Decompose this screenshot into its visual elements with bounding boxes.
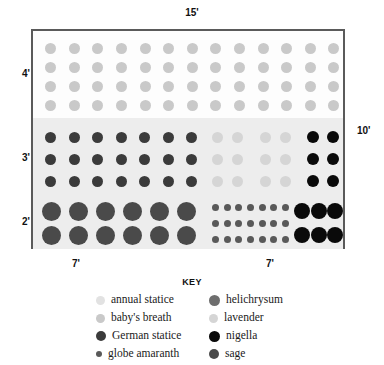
dimension-label-bottom-right: 7'	[250, 258, 290, 269]
plant-dot-german_statice	[186, 154, 197, 165]
plant-group-lavender-b	[255, 126, 295, 192]
plant-dot-babys_breath	[163, 100, 174, 111]
dimension-label-bottom-left: 7'	[56, 258, 96, 269]
plant-group-lavender-a	[207, 126, 247, 192]
plant-dot-babys_breath	[187, 100, 198, 111]
plant-dot-babys_breath	[234, 62, 245, 73]
plant-dot-babys_breath	[69, 62, 80, 73]
legend-item: globe amaranth	[96, 345, 209, 363]
plant-dot-babys_breath	[163, 62, 174, 73]
legend-item-label: helichrysum	[226, 294, 283, 306]
legend-item-label: annual statice	[111, 294, 174, 306]
plant-dot-babys_breath	[258, 100, 269, 111]
plant-dot-lavender_b	[260, 132, 271, 143]
plant-dot-globe_amaranth	[224, 220, 231, 227]
plant-dot-sage	[69, 226, 88, 245]
legend-item-label: nigella	[226, 330, 257, 342]
plant-dot-babys_breath	[258, 81, 269, 92]
plant-dot-german_statice	[139, 154, 150, 165]
plant-dot-globe_amaranth	[224, 236, 231, 243]
plant-dot-babys_breath	[92, 100, 103, 111]
plant-dot-lavender_a	[212, 132, 223, 143]
plant-dot-german_statice	[163, 132, 174, 143]
plant-dot-nigella_bottom	[327, 203, 343, 219]
plant-dot-babys_breath	[45, 100, 56, 111]
plant-dot-babys_breath	[140, 62, 151, 73]
plant-group-nigella-bottom	[294, 199, 344, 247]
plant-dot-german_statice	[45, 176, 56, 187]
plant-dot-german_statice	[69, 154, 80, 165]
legend-item: helichrysum	[209, 291, 326, 309]
plant-dot-nigella_bottom	[311, 227, 327, 243]
plant-dot-globe_amaranth	[270, 236, 277, 243]
plant-dot-nigella_mid	[307, 175, 319, 187]
dimension-label-left-middle: 3'	[8, 152, 30, 163]
plant-dot-babys_breath	[210, 81, 221, 92]
plant-dot-babys_breath	[140, 100, 151, 111]
plant-dot-babys_breath	[116, 62, 127, 73]
plant-dot-lavender_a	[212, 176, 223, 187]
plant-dot-nigella_bottom	[327, 227, 343, 243]
plant-dot-nigella_mid	[327, 153, 339, 165]
dimension-label-right: 10'	[357, 125, 371, 136]
plant-dot-babys_breath	[187, 81, 198, 92]
plant-dot-babys_breath	[187, 62, 198, 73]
plant-dot-german_statice	[139, 176, 150, 187]
plant-dot-babys_breath	[305, 62, 316, 73]
plant-dot-babys_breath	[45, 81, 56, 92]
legend-swatch-icon	[209, 295, 220, 306]
plant-dot-german_statice	[186, 176, 197, 187]
plant-dot-babys_breath	[328, 43, 339, 54]
plant-dot-german_statice	[45, 154, 56, 165]
plant-dot-globe_amaranth	[247, 220, 254, 227]
plant-dot-globe_amaranth	[259, 220, 266, 227]
plant-dot-babys_breath	[140, 43, 151, 54]
plant-dot-german_statice	[116, 132, 127, 143]
plant-dot-lavender_b	[260, 176, 271, 187]
plant-dot-babys_breath	[116, 81, 127, 92]
plant-dot-babys_breath	[116, 43, 127, 54]
legend-item: baby's breath	[96, 309, 209, 327]
plant-dot-german_statice	[69, 132, 80, 143]
plant-dot-nigella_mid	[307, 153, 319, 165]
garden-plan-figure: 15' 4' 3' 2' 10' 7' 7' KEY annual static…	[0, 0, 384, 365]
plant-dot-babys_breath	[281, 62, 292, 73]
legend-item: German statice	[96, 327, 209, 345]
plant-dot-lavender_a	[232, 176, 243, 187]
plant-dot-globe_amaranth	[259, 204, 266, 211]
legend-item-label: baby's breath	[111, 312, 172, 324]
plant-dot-babys_breath	[305, 100, 316, 111]
plant-dot-babys_breath	[92, 62, 103, 73]
plant-dot-babys_breath	[281, 43, 292, 54]
plant-dot-sage	[150, 202, 169, 221]
plant-group-german-statice	[39, 126, 204, 192]
legend-swatch-icon	[96, 314, 105, 323]
plant-dot-globe_amaranth	[212, 204, 219, 211]
plant-dot-globe_amaranth	[235, 204, 242, 211]
legend-item-label: German statice	[112, 330, 181, 342]
legend-item: lavender	[209, 309, 326, 327]
plant-dot-lavender_b	[280, 176, 291, 187]
plant-dot-sage	[69, 202, 88, 221]
plant-dot-german_statice	[116, 176, 127, 187]
plant-dot-globe_amaranth	[247, 204, 254, 211]
plant-dot-babys_breath	[328, 62, 339, 73]
plant-dot-babys_breath	[328, 100, 339, 111]
plant-dot-globe_amaranth	[212, 236, 219, 243]
plant-group-sage	[38, 199, 200, 247]
plant-dot-german_statice	[163, 176, 174, 187]
plant-dot-globe_amaranth	[224, 204, 231, 211]
plant-dot-lavender_b	[280, 154, 291, 165]
plant-dot-babys_breath	[92, 43, 103, 54]
plant-dot-babys_breath	[234, 43, 245, 54]
plant-dot-globe_amaranth	[282, 220, 289, 227]
key-legend: annual staticehelichrysumbaby's breathla…	[96, 291, 326, 363]
plant-dot-babys_breath	[163, 81, 174, 92]
legend-item-label: globe amaranth	[108, 348, 179, 360]
plant-dot-globe_amaranth	[282, 236, 289, 243]
plant-dot-sage	[123, 226, 142, 245]
legend-swatch-icon	[209, 331, 220, 342]
plant-dot-german_statice	[163, 154, 174, 165]
plant-group-babys-breath	[39, 39, 346, 115]
plant-dot-german_statice	[92, 132, 103, 143]
